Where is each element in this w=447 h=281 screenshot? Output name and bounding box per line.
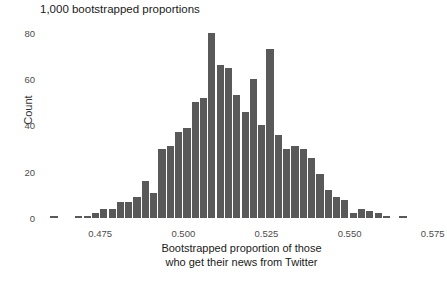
y-axis-tick-label: 20 (24, 166, 35, 177)
histogram-bar (125, 202, 132, 218)
histogram-bar (75, 216, 82, 218)
histogram-bar (341, 200, 348, 219)
histogram-bar (250, 79, 257, 218)
histogram-bar (233, 95, 240, 218)
histogram-bar (142, 181, 149, 218)
y-axis-tick-label: 60 (24, 74, 35, 85)
histogram-bar (158, 149, 165, 218)
chart-title: 1,000 bootstrapped proportions (40, 2, 200, 16)
histogram-bar (150, 193, 157, 218)
plot-area (42, 26, 441, 218)
histogram-bar (383, 216, 390, 218)
histogram-bar (308, 158, 315, 218)
histogram-bar (300, 149, 307, 218)
y-axis-tick-label: 80 (24, 27, 35, 38)
histogram-bar (167, 146, 174, 218)
histogram-bar (325, 190, 332, 218)
histogram-bar (225, 68, 232, 218)
histogram-bar (175, 132, 182, 218)
histogram-bar (100, 209, 107, 218)
x-axis-title-line-2: who get their news from Twitter (42, 256, 441, 270)
x-axis-tick-label: 0.550 (338, 228, 362, 239)
histogram-bar (117, 202, 124, 218)
x-axis-tick-label: 0.575 (421, 228, 445, 239)
x-axis-tick-label: 0.500 (171, 228, 195, 239)
x-axis-title-line-1: Bootstrapped proportion of those (42, 242, 441, 256)
histogram-bar (242, 112, 249, 218)
bars-layer (42, 26, 441, 218)
histogram-chart: 1,000 bootstrapped proportions Count 020… (0, 0, 447, 281)
histogram-bar (200, 98, 207, 218)
histogram-bar (275, 135, 282, 218)
histogram-bar (366, 211, 373, 218)
histogram-bar (283, 149, 290, 218)
histogram-bar (183, 128, 190, 218)
histogram-bar (358, 209, 365, 218)
y-axis-tick-label: 0 (30, 213, 35, 224)
histogram-bar (217, 65, 224, 218)
x-axis-tick-label: 0.525 (255, 228, 279, 239)
histogram-bar (316, 174, 323, 218)
histogram-bar (192, 102, 199, 218)
histogram-bar (291, 146, 298, 218)
x-axis-tick-label: 0.475 (88, 228, 112, 239)
histogram-bar (84, 216, 91, 218)
histogram-bar (50, 216, 57, 218)
x-axis-title: Bootstrapped proportion of those who get… (42, 242, 441, 269)
histogram-bar (266, 49, 273, 218)
histogram-bar (375, 213, 382, 218)
x-axis-tick-labels: 0.4750.5000.5250.5500.575 (0, 228, 447, 242)
histogram-bar (133, 197, 140, 218)
histogram-bar (109, 209, 116, 218)
histogram-bar (399, 216, 406, 218)
histogram-bar (92, 213, 99, 218)
histogram-bar (208, 33, 215, 218)
histogram-bar (258, 125, 265, 218)
histogram-bar (350, 213, 357, 218)
y-axis-tick-label: 40 (24, 120, 35, 131)
histogram-bar (333, 197, 340, 218)
